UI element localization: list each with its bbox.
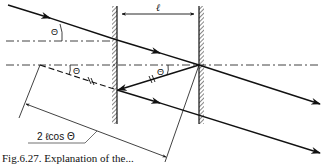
- path-difference-label: 2 ℓcos Θ: [37, 131, 75, 142]
- angle-lower-label: Θ: [73, 66, 80, 76]
- etalon-diagram: ℓ 2 ℓcos Θ Θ: [0, 0, 324, 164]
- incident-ray: [8, 5, 320, 104]
- spacing-label: ℓ: [156, 2, 160, 13]
- angle-lower: Θ: [69, 65, 80, 76]
- path-difference-dimension: 2 ℓcos Θ: [26, 104, 166, 157]
- spacing-dimension: ℓ: [122, 2, 194, 14]
- angle-reflected-label: Θ: [157, 67, 164, 77]
- figure-caption: Fig.6.27. Explanation of the...: [2, 152, 134, 164]
- perpendicular-line-left: [19, 65, 40, 118]
- angle-incident: Θ: [51, 24, 62, 41]
- second-transmitted-ray: [117, 90, 320, 153]
- angle-incident-label: Θ: [51, 27, 58, 37]
- parallel-marks-lower: [88, 77, 94, 85]
